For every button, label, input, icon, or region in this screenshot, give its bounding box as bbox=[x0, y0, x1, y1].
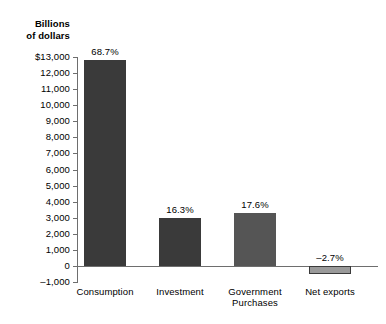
y-axis-tick-label: 6,000 bbox=[8, 165, 70, 175]
y-axis-title: Billions of dollars bbox=[8, 18, 70, 41]
y-axis-tick bbox=[73, 234, 78, 235]
y-axis-tick bbox=[73, 170, 78, 171]
y-axis-tick bbox=[73, 121, 78, 122]
bar-value-label-2: 17.6% bbox=[215, 200, 295, 210]
y-axis-tick bbox=[73, 137, 78, 138]
y-axis-tick-label: $13,000 bbox=[8, 52, 70, 62]
bar-value-label-1: 16.3% bbox=[140, 205, 220, 215]
y-axis-tick bbox=[73, 153, 78, 154]
y-axis-tick bbox=[73, 57, 78, 58]
y-axis-tick-label: 3,000 bbox=[8, 213, 70, 223]
y-axis-tick bbox=[73, 250, 78, 251]
bar-1 bbox=[159, 218, 201, 266]
gdp-components-bar-chart: Billions of dollars $13,00012,00011,0001… bbox=[0, 0, 386, 324]
y-axis-tick-label: 10,000 bbox=[8, 100, 70, 110]
x-axis-category-label-3: Net exports bbox=[285, 286, 375, 297]
y-axis-tick bbox=[73, 73, 78, 74]
y-axis-tick-label: 8,000 bbox=[8, 132, 70, 142]
bar-value-label-3: –2.7% bbox=[290, 253, 370, 263]
bar-2 bbox=[234, 213, 276, 266]
y-axis-tick-label: 7,000 bbox=[8, 148, 70, 158]
y-axis-tick-label: 0 bbox=[8, 261, 70, 271]
y-axis-tick bbox=[73, 218, 78, 219]
y-axis-tick-label: 2,000 bbox=[8, 229, 70, 239]
y-axis-tick-label: 12,000 bbox=[8, 68, 70, 78]
bar-0 bbox=[84, 60, 126, 266]
y-axis-tick bbox=[73, 89, 78, 90]
y-axis-tick-label: 9,000 bbox=[8, 116, 70, 126]
y-axis-tick-label: 4,000 bbox=[8, 197, 70, 207]
y-axis-tick bbox=[73, 186, 78, 187]
y-axis-tick bbox=[73, 202, 78, 203]
y-axis-tick-label: 11,000 bbox=[8, 84, 70, 94]
y-axis-tick bbox=[73, 282, 78, 283]
y-axis-tick bbox=[73, 105, 78, 106]
y-axis-tick-label: 1,000 bbox=[8, 245, 70, 255]
bar-value-label-0: 68.7% bbox=[65, 47, 145, 57]
y-axis-tick-label: 5,000 bbox=[8, 181, 70, 191]
bar-3 bbox=[309, 266, 351, 274]
